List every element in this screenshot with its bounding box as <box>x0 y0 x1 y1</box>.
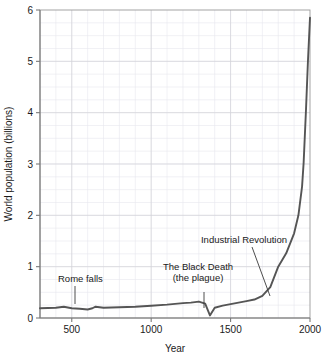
x-tick-label: 2000 <box>299 324 322 335</box>
population-chart: 0123456 500100015002000 Rome fallsThe Bl… <box>0 0 325 358</box>
y-axis-title: World population (billions) <box>3 107 14 222</box>
chart-annotations: Rome fallsThe Black Death(the plague)Ind… <box>58 234 287 308</box>
x-tick-label: 1000 <box>140 324 163 335</box>
annotation-label-industrial-revolution: Industrial Revolution <box>201 234 287 245</box>
chart-canvas: 0123456 500100015002000 Rome fallsThe Bl… <box>0 0 325 358</box>
x-axis-title: Year <box>165 343 186 354</box>
x-tick-label: 500 <box>63 324 80 335</box>
annotation-leader-industrial-revolution <box>252 247 270 296</box>
y-axis-ticks: 0123456 <box>27 5 40 324</box>
y-tick-label: 5 <box>27 56 33 67</box>
y-tick-label: 1 <box>27 261 33 272</box>
y-tick-label: 0 <box>27 313 33 324</box>
y-tick-label: 2 <box>27 210 33 221</box>
annotation-label-rome-falls: Rome falls <box>58 273 103 284</box>
x-axis-ticks: 500100015002000 <box>63 318 321 335</box>
annotation-label-black-death: The Black Death <box>163 261 233 272</box>
y-tick-label: 4 <box>27 107 33 118</box>
x-tick-label: 1500 <box>219 324 242 335</box>
y-tick-label: 6 <box>27 5 33 16</box>
y-tick-label: 3 <box>27 159 33 170</box>
annotation-label-black-death: (the plague) <box>173 272 224 283</box>
